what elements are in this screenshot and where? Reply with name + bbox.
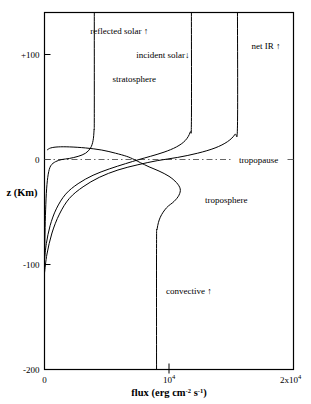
y-tick-label: +100 bbox=[21, 50, 40, 60]
x-tick-label: 0 bbox=[42, 375, 47, 385]
y-tick-label: -200 bbox=[23, 365, 40, 375]
annotation-incident-solar: incident solar↓ bbox=[136, 50, 189, 60]
annotation-net-ir: net IR ↑ bbox=[252, 41, 281, 51]
annotation-reflected-solar: reflected solar ↑ bbox=[90, 26, 148, 36]
y-axis-title: z (Km) bbox=[6, 187, 38, 199]
annotation-convective: convective ↑ bbox=[166, 286, 212, 296]
y-tick-label: 0 bbox=[35, 155, 40, 165]
annotation-troposphere: troposphere bbox=[205, 195, 248, 205]
flux-vs-altitude-chart: +1000-100-200 01042x104 reflected solar … bbox=[0, 0, 311, 404]
annotation-tropopause: tropopause bbox=[239, 155, 279, 165]
y-tick-label: -100 bbox=[23, 260, 40, 270]
chart-svg: +1000-100-200 01042x104 reflected solar … bbox=[0, 0, 311, 404]
x-axis-title: flux (erg cm-2 s-1) bbox=[131, 387, 207, 400]
annotation-stratosphere: stratosphere bbox=[112, 74, 155, 84]
chart-background bbox=[0, 0, 311, 404]
